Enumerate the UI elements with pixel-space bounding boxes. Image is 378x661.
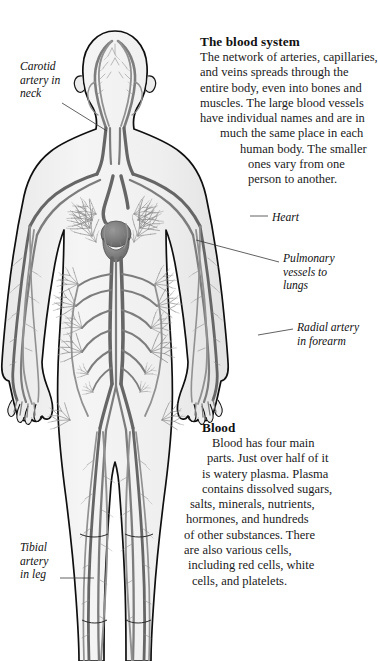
text-line: of other substances. There (184, 528, 374, 543)
label-tibial-artery: Tibial artery in leg (20, 541, 90, 582)
text-line: have individual names and are in (200, 111, 374, 126)
text-line: is watery plasma. Plasma (202, 467, 374, 482)
text-line: ones vary from one (248, 157, 374, 172)
text-line: person to another. (248, 172, 374, 187)
text-line: including red cells, white (188, 558, 374, 573)
label-radial-artery: Radial artery in forearm (297, 321, 375, 348)
text-line: contains dissolved sugars, (202, 482, 374, 497)
blood-paragraph: Blood has four main parts. Just over hal… (198, 436, 374, 589)
blood-system-heading: The blood system (200, 34, 374, 49)
text-line: hormones, and hundreds (186, 512, 374, 527)
blood-heading: Blood (202, 420, 374, 435)
blood-text-block: Blood Blood has four main parts. Just ov… (198, 420, 374, 589)
text-line: much the same place in each (220, 126, 374, 141)
blood-system-text-block: The blood system The network of arteries… (200, 34, 374, 188)
label-pulmonary-vessels: Pulmonary vessels to lungs (283, 252, 369, 293)
text-line: and veins spreads through the (200, 65, 374, 80)
text-line: parts. Just over half of it (207, 451, 374, 466)
text-line: The network of arteries, capillaries, (200, 50, 374, 65)
text-line: entire body, even into bones and (200, 81, 374, 96)
blood-system-paragraph: The network of arteries, capillaries, an… (200, 50, 374, 188)
text-line: muscles. The large blood vessels (200, 96, 374, 111)
text-line: salts, minerals, nutrients, (190, 497, 374, 512)
text-line: cells, and platelets. (192, 574, 374, 589)
leader-line-radial (258, 329, 293, 335)
label-heart: Heart (272, 211, 299, 225)
text-line: are also various cells, (184, 543, 374, 558)
text-line: Blood has four main (212, 436, 374, 451)
label-carotid-artery: Carotid artery in neck (20, 60, 90, 101)
text-line: human body. The smaller (240, 142, 374, 157)
